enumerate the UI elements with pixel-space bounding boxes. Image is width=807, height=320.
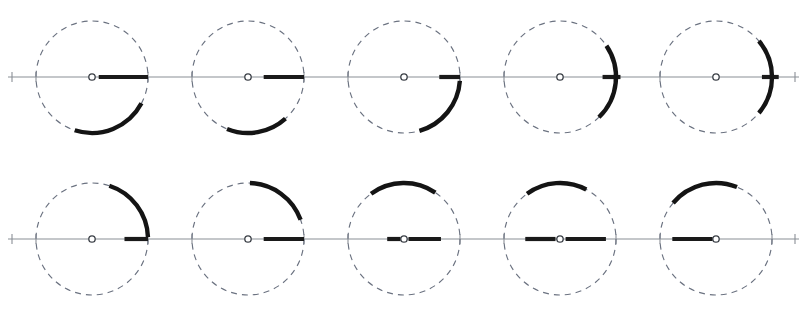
phasor-canvas (0, 0, 807, 320)
phasor-figure (0, 0, 807, 320)
center-dot-panel-r1c4 (557, 74, 563, 80)
arc-panel-r2c5 (673, 183, 737, 203)
arc-panel-r2c2 (250, 183, 301, 220)
center-dot-panel-r1c1 (89, 74, 95, 80)
axes-layer (8, 72, 799, 244)
center-dot-panel-r2c1 (89, 236, 95, 242)
arc-panel-r2c4 (527, 183, 586, 194)
center-dot-panel-r2c3 (401, 236, 407, 242)
center-dot-panel-r1c2 (245, 74, 251, 80)
arc-panel-r1c3 (419, 81, 459, 131)
center-dot-panel-r2c5 (713, 236, 719, 242)
center-dot-panel-r2c4 (557, 236, 563, 242)
center-dot-panel-r2c2 (245, 236, 251, 242)
center-dots-layer (89, 74, 719, 242)
phasor-marks-layer (75, 41, 779, 239)
arc-panel-r1c4 (599, 46, 616, 118)
arc-panel-r1c2 (227, 119, 285, 133)
dashed-circles-layer (36, 21, 772, 295)
arc-panel-r2c3 (371, 183, 435, 194)
arc-panel-r1c1 (75, 103, 142, 133)
arc-panel-r2c1 (109, 186, 148, 237)
center-dot-panel-r1c3 (401, 74, 407, 80)
center-dot-panel-r1c5 (713, 74, 719, 80)
